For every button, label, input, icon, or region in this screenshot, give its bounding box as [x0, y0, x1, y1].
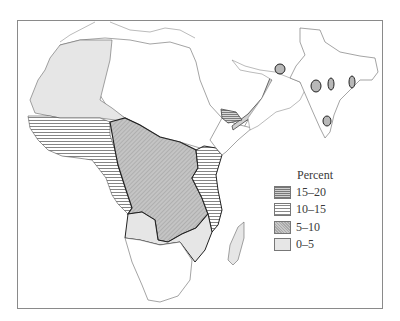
india-spot-1	[275, 64, 285, 74]
india-spot-5	[323, 116, 331, 126]
stipple-swatch	[274, 221, 291, 234]
legend-title: Percent	[297, 168, 333, 183]
light-gray-swatch	[274, 238, 291, 251]
legend-item-0-5: 0–5	[274, 237, 314, 251]
legend-item-5-10: 5–10	[274, 220, 320, 234]
madagascar	[228, 222, 244, 265]
europe-coast	[60, 22, 195, 42]
africa-india-map	[0, 0, 400, 321]
india-spot-4	[349, 76, 355, 88]
south-africa-region	[125, 238, 192, 302]
dense-hatch-swatch	[274, 186, 291, 199]
india-spot-3	[328, 78, 334, 90]
hatch-swatch	[274, 203, 291, 216]
india-spot-2	[311, 80, 321, 92]
legend-item-15-20: 15–20	[274, 185, 326, 199]
legend-item-10-15: 10–15	[274, 202, 326, 216]
